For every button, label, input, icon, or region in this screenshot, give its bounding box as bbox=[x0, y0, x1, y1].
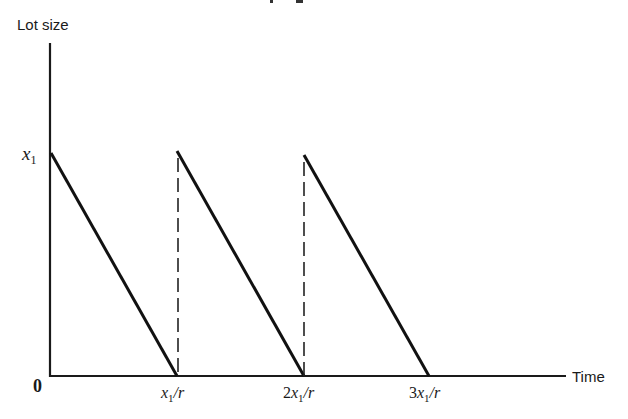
origin-label: 0 bbox=[33, 376, 42, 396]
y-axis-label: Lot size bbox=[17, 16, 69, 33]
y-tick-label-x1: x1 bbox=[21, 143, 36, 167]
x-axis-label: Time bbox=[572, 368, 605, 385]
cropped-caption-fragments bbox=[270, 0, 303, 3]
sawtooth-series bbox=[51, 151, 429, 376]
depletion-segment-3 bbox=[304, 155, 429, 376]
x-tick-label-3: 3x1/r bbox=[409, 384, 441, 404]
depletion-segment-2 bbox=[177, 151, 304, 376]
x-tick-label-2: 2x1/r bbox=[283, 384, 315, 404]
x-tick-label-1: x1/r bbox=[160, 384, 185, 404]
depletion-segment-1 bbox=[51, 153, 177, 376]
sawtooth-inventory-chart: Lot size 0 x1 x1/r 2x1/r 3x1/r Time bbox=[0, 0, 628, 419]
